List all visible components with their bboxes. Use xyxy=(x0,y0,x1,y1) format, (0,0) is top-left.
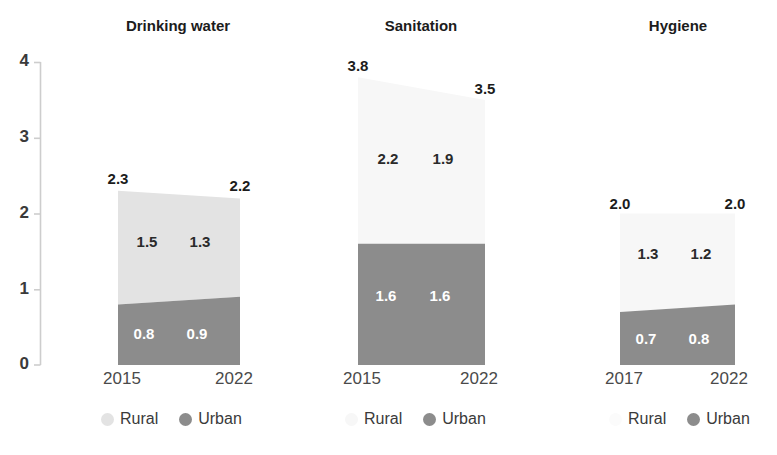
total-label-drinking-water-2022: 2.2 xyxy=(218,177,262,194)
legend-swatch-rural-icon xyxy=(345,413,358,426)
y-tick-1: 1 xyxy=(3,279,29,299)
x-tick-hygiene-right: 2022 xyxy=(701,369,757,389)
legend-swatch-rural-icon xyxy=(101,413,114,426)
legend-item-urban-hygiene[interactable]: Urban xyxy=(687,410,750,428)
legend-label-urban: Urban xyxy=(706,410,750,428)
rural-value-drinking-water-2015: 1.5 xyxy=(127,233,167,250)
x-tick-drinking-water-right: 2022 xyxy=(206,369,262,389)
legend-label-rural: Rural xyxy=(120,410,158,428)
legend-item-rural-hygiene[interactable]: Rural xyxy=(609,410,666,428)
x-tick-sanitation-left: 2015 xyxy=(334,369,390,389)
urban-value-sanitation-2015: 1.6 xyxy=(366,287,406,304)
legend-item-rural-drinking-water[interactable]: Rural xyxy=(101,410,158,428)
rural-value-drinking-water-2022: 1.3 xyxy=(180,233,220,250)
total-label-sanitation-2015: 3.8 xyxy=(336,57,380,74)
legend-label-urban: Urban xyxy=(442,410,486,428)
legend-swatch-urban-icon xyxy=(423,413,436,426)
y-tick-0: 0 xyxy=(3,354,29,374)
legend-sanitation: Rural Urban xyxy=(345,410,486,428)
total-label-hygiene-2022: 2.0 xyxy=(713,195,757,212)
urban-value-drinking-water-2015: 0.8 xyxy=(124,325,164,342)
panel-title-hygiene: Hygiene xyxy=(608,17,748,34)
urban-value-drinking-water-2022: 0.9 xyxy=(177,325,217,342)
legend-swatch-urban-icon xyxy=(179,413,192,426)
urban-value-hygiene-2022: 0.8 xyxy=(679,330,719,347)
legend-drinking-water: Rural Urban xyxy=(101,410,242,428)
legend-label-rural: Rural xyxy=(364,410,402,428)
x-tick-hygiene-left: 2017 xyxy=(596,369,652,389)
rural-value-sanitation-2022: 1.9 xyxy=(423,150,463,167)
rural-value-hygiene-2022: 1.2 xyxy=(681,245,721,262)
rural-value-sanitation-2015: 2.2 xyxy=(368,150,408,167)
urban-value-sanitation-2022: 1.6 xyxy=(420,287,460,304)
legend-item-urban-drinking-water[interactable]: Urban xyxy=(179,410,242,428)
legend-item-rural-sanitation[interactable]: Rural xyxy=(345,410,402,428)
legend-hygiene: Rural Urban xyxy=(609,410,750,428)
panel-title-drinking-water: Drinking water xyxy=(108,17,248,34)
x-tick-drinking-water-left: 2015 xyxy=(94,369,150,389)
legend-swatch-rural-icon xyxy=(609,413,622,426)
x-tick-sanitation-right: 2022 xyxy=(451,369,507,389)
legend-label-rural: Rural xyxy=(628,410,666,428)
legend-label-urban: Urban xyxy=(198,410,242,428)
y-tick-2: 2 xyxy=(3,203,29,223)
legend-item-urban-sanitation[interactable]: Urban xyxy=(423,410,486,428)
y-tick-4: 4 xyxy=(3,51,29,71)
y-tick-3: 3 xyxy=(3,127,29,147)
panel-title-sanitation: Sanitation xyxy=(351,17,491,34)
total-label-sanitation-2022: 3.5 xyxy=(463,80,507,97)
chart-canvas: 4 3 2 1 0 Drinking water 2.3 2.2 1.5 1.3… xyxy=(0,0,777,455)
rural-value-hygiene-2017: 1.3 xyxy=(628,245,668,262)
urban-value-hygiene-2017: 0.7 xyxy=(626,330,666,347)
total-label-hygiene-2017: 2.0 xyxy=(598,195,642,212)
legend-swatch-urban-icon xyxy=(687,413,700,426)
total-label-drinking-water-2015: 2.3 xyxy=(96,170,140,187)
